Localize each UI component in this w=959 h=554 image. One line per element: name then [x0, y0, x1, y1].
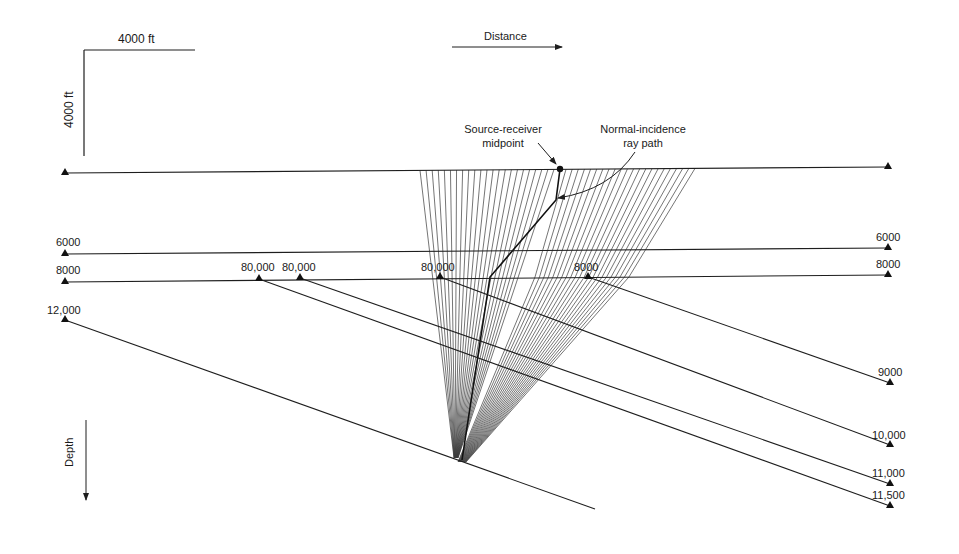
interfaces [65, 167, 890, 509]
dip-end-label-9000: 9000 [878, 367, 902, 378]
dip-start-label-8000: 8000 [574, 262, 598, 273]
midpoint-label-line1: Source-receiver [448, 124, 558, 135]
ray-path [420, 170, 454, 458]
dipping-interface-line [440, 277, 890, 445]
dip-end-label-11000: 11,000 [872, 468, 905, 479]
normal-ray-label-line2: ray path [588, 138, 698, 149]
interface-label-8000-right: 8000 [876, 259, 900, 270]
interface-label-12000: 12,000 [47, 305, 81, 316]
dip-start-marker-icon [436, 272, 444, 279]
interface-label-6000-right: 6000 [876, 232, 900, 243]
diagram-canvas [0, 0, 959, 554]
midpoint-label-line2: midpoint [448, 138, 558, 149]
ray-path [438, 170, 454, 458]
ray-path [463, 169, 646, 462]
interface-label-6000-left: 6000 [56, 237, 80, 248]
midpoint-dot [557, 166, 563, 172]
distance-axis-label: Distance [484, 31, 527, 42]
interface-label-8000-left: 8000 [56, 265, 80, 276]
seismic-ray-diagram: 4000 ft 4000 ft Distance Depth Source-re… [0, 0, 959, 554]
interface-marker-icon [884, 270, 892, 277]
dip-start-label-80000-b: 80,000 [282, 262, 316, 273]
scale-horizontal-label: 4000 ft [118, 33, 155, 45]
interface-marker-icon [61, 315, 69, 322]
surface-line [65, 167, 888, 173]
ray-path [457, 170, 518, 458]
dip-start-marker-icon [255, 274, 263, 281]
dipping-interface-line [300, 278, 890, 484]
dip-end-label-11500: 11,500 [872, 490, 905, 501]
ray-path [458, 170, 542, 458]
dip-start-label-80000-a: 80,000 [421, 262, 455, 273]
interface-line [65, 248, 888, 254]
surface-marker-right-icon [884, 162, 892, 169]
scale-vertical-label: 4000 ft [63, 91, 75, 128]
scale-bar [84, 50, 195, 156]
depth-axis-label: Depth [64, 438, 75, 467]
ray-path [463, 169, 640, 462]
interface-line [65, 275, 888, 282]
dip-start-label-80000-c: 80,000 [241, 262, 275, 273]
dipping-interface-line [588, 277, 890, 383]
normal-ray-label-line1: Normal-incidence [588, 124, 698, 135]
dip-end-label-10000: 10,000 [872, 430, 906, 441]
interface-marker-icon [61, 277, 69, 284]
surface-marker-left-icon [61, 168, 69, 175]
dipping-interface-line [259, 279, 890, 506]
ray-path [444, 170, 454, 458]
ray-path [426, 170, 454, 458]
interface-marker-icon [884, 243, 892, 250]
interface-marker-icon [61, 249, 69, 256]
ray-fan [420, 168, 695, 462]
dip-start-marker-icon [296, 273, 304, 280]
interface-line [65, 320, 595, 509]
